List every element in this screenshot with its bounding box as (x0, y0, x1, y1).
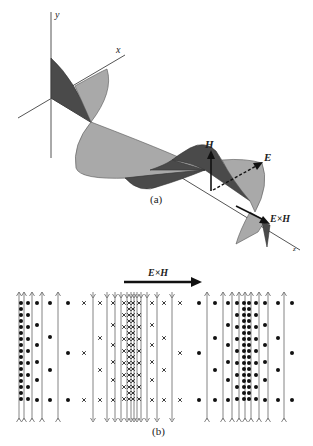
x-axis-label: x (115, 44, 121, 55)
dot-out-of-page-icon (213, 368, 217, 372)
cross-into-page-icon (137, 361, 141, 365)
cross-into-page-icon (162, 301, 166, 305)
cross-into-page-icon (127, 337, 131, 341)
dot-out-of-page-icon (247, 367, 251, 371)
cross-into-page-icon (150, 378, 154, 382)
dot-out-of-page-icon (19, 325, 23, 329)
cross-into-page-icon (178, 351, 182, 355)
dot-out-of-page-icon (66, 351, 70, 355)
cross-into-page-icon (127, 325, 131, 329)
dot-out-of-page-icon (19, 349, 23, 353)
dot-out-of-page-icon (235, 385, 239, 389)
cross-into-page-icon (122, 301, 126, 305)
part-b-field-lines: E×H (b) (17, 267, 295, 438)
em-wave-figure: H E E×H y x z (a) E×H (b) (0, 0, 313, 446)
cross-into-page-icon (111, 360, 115, 364)
dot-out-of-page-icon (254, 349, 258, 353)
cross-into-page-icon (162, 336, 166, 340)
dot-out-of-page-icon (247, 355, 251, 359)
cross-into-page-icon (127, 301, 131, 305)
dot-out-of-page-icon (66, 301, 70, 305)
cross-into-page-icon (122, 397, 126, 401)
part-b-caption: (b) (152, 425, 165, 438)
dot-out-of-page-icon (213, 398, 217, 402)
dot-out-of-page-icon (235, 313, 239, 317)
dot-out-of-page-icon (197, 351, 201, 355)
dot-out-of-page-icon (35, 398, 39, 402)
dot-out-of-page-icon (254, 361, 258, 365)
dot-out-of-page-icon (235, 373, 239, 377)
dot-out-of-page-icon (19, 373, 23, 377)
dot-out-of-page-icon (26, 349, 30, 353)
dot-out-of-page-icon (276, 301, 280, 305)
cross-into-page-icon (122, 373, 126, 377)
dot-out-of-page-icon (235, 337, 239, 341)
cross-into-page-icon (82, 301, 86, 305)
dot-out-of-page-icon (242, 319, 246, 323)
dot-out-of-page-icon (26, 385, 30, 389)
cross-into-page-icon (178, 301, 182, 305)
dot-out-of-page-icon (247, 391, 251, 395)
cross-into-page-icon (137, 337, 141, 341)
cross-into-page-icon (127, 367, 131, 371)
dot-out-of-page-icon (242, 331, 246, 335)
dot-out-of-page-icon (226, 398, 230, 402)
dot-out-of-page-icon (263, 360, 267, 364)
dot-out-of-page-icon (254, 373, 258, 377)
dot-out-of-page-icon (247, 373, 251, 377)
dot-out-of-page-icon (242, 385, 246, 389)
dot-out-of-page-icon (254, 325, 258, 329)
dot-out-of-page-icon (48, 398, 52, 402)
dot-out-of-page-icon (226, 378, 230, 382)
dot-out-of-page-icon (48, 301, 52, 305)
y-axis-label: y (54, 9, 60, 20)
dot-out-of-page-icon (197, 301, 201, 305)
dot-out-of-page-icon (26, 313, 30, 317)
cross-into-page-icon (111, 398, 115, 402)
dot-out-of-page-icon (263, 378, 267, 382)
cross-into-page-icon (111, 378, 115, 382)
dot-out-of-page-icon (247, 301, 251, 305)
dot-out-of-page-icon (26, 397, 30, 401)
dot-out-of-page-icon (235, 361, 239, 365)
dot-out-of-page-icon (19, 301, 23, 305)
cross-into-page-icon (98, 301, 102, 305)
cross-into-page-icon (127, 385, 131, 389)
dot-out-of-page-icon (247, 343, 251, 347)
cross-into-page-icon (127, 331, 131, 335)
dot-out-of-page-icon (26, 373, 30, 377)
dot-out-of-page-icon (247, 397, 251, 401)
magnetic-lobe-4 (262, 222, 270, 247)
dot-out-of-page-icon (247, 385, 251, 389)
cross-into-page-icon (122, 325, 126, 329)
dot-out-of-page-icon (254, 385, 258, 389)
cross-into-page-icon (127, 313, 131, 317)
cross-into-page-icon (162, 368, 166, 372)
part-a-wave-diagram: H E E×H y x z (a) (18, 9, 300, 253)
cross-into-page-icon (127, 391, 131, 395)
dot-out-of-page-icon (247, 379, 251, 383)
cross-into-page-icon (137, 373, 141, 377)
dot-out-of-page-icon (19, 307, 23, 311)
dot-out-of-page-icon (254, 397, 258, 401)
dot-out-of-page-icon (247, 337, 251, 341)
cross-into-page-icon (127, 373, 131, 377)
dot-out-of-page-icon (242, 361, 246, 365)
dot-out-of-page-icon (66, 398, 70, 402)
cross-into-page-icon (122, 385, 126, 389)
dot-out-of-page-icon (19, 313, 23, 317)
cross-into-page-icon (150, 360, 154, 364)
h-vector-label: H (204, 138, 214, 150)
cross-into-page-icon (150, 301, 154, 305)
dot-out-of-page-icon (26, 337, 30, 341)
dot-out-of-page-icon (19, 379, 23, 383)
dot-out-of-page-icon (242, 379, 246, 383)
dot-out-of-page-icon (242, 313, 246, 317)
cross-into-page-icon (122, 349, 126, 353)
cross-into-page-icon (137, 313, 141, 317)
dot-out-of-page-icon (226, 343, 230, 347)
dot-out-of-page-icon (290, 351, 294, 355)
dot-out-of-page-icon (242, 343, 246, 347)
dot-out-of-page-icon (242, 355, 246, 359)
cross-into-page-icon (127, 349, 131, 353)
